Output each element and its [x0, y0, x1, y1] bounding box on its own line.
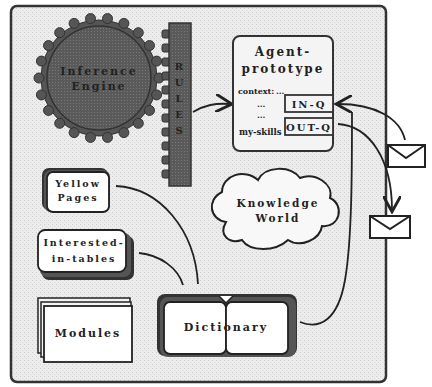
- agent-prototype-box: Agent- prototype context: ... ... ... my…: [233, 36, 333, 151]
- svg-text:Yellow: Yellow: [54, 178, 101, 189]
- svg-text:...: ...: [257, 99, 266, 109]
- dictionary-book: Dictionary: [157, 294, 297, 357]
- svg-text:Modules: Modules: [55, 327, 122, 340]
- svg-text:Dictionary: Dictionary: [184, 321, 268, 334]
- rules-bar: RULES: [162, 23, 191, 186]
- rules-letter: S: [175, 125, 184, 136]
- interested-in-tables-stack: Interested- in-tables: [38, 230, 134, 280]
- architecture-diagram: Inference Engine RULES Agent- prototype …: [0, 0, 432, 387]
- out-queue: OUT-Q: [285, 118, 333, 135]
- svg-text:prototype: prototype: [242, 62, 325, 76]
- rules-letter: R: [175, 61, 185, 72]
- svg-text:Interested-: Interested-: [43, 237, 124, 248]
- svg-text:Knowledge: Knowledge: [237, 197, 320, 209]
- svg-text:...: ...: [257, 110, 266, 120]
- svg-text:Pages: Pages: [57, 192, 98, 203]
- yellow-pages-stack: Yellow Pages: [42, 168, 110, 212]
- svg-text:in-tables: in-tables: [52, 253, 117, 264]
- svg-text:Agent-: Agent-: [254, 45, 312, 59]
- svg-text:context:: context:: [238, 86, 274, 96]
- rules-letter: L: [175, 93, 184, 104]
- in-queue: IN-Q: [285, 95, 333, 112]
- svg-text:Engine: Engine: [71, 80, 126, 93]
- outgoing-message-envelope-icon: [370, 216, 410, 238]
- svg-text:World: World: [255, 212, 301, 224]
- incoming-message-envelope-icon: [388, 145, 425, 167]
- inference-engine-label: Inference: [60, 65, 137, 78]
- modules-stack: Modules: [38, 298, 132, 362]
- rules-letter: U: [175, 77, 186, 88]
- svg-text:...: ...: [276, 86, 285, 96]
- rules-letter: E: [175, 109, 185, 120]
- svg-text:my-skills: my-skills: [239, 127, 282, 137]
- svg-text:OUT-Q: OUT-Q: [286, 122, 332, 133]
- svg-text:IN-Q: IN-Q: [292, 99, 327, 110]
